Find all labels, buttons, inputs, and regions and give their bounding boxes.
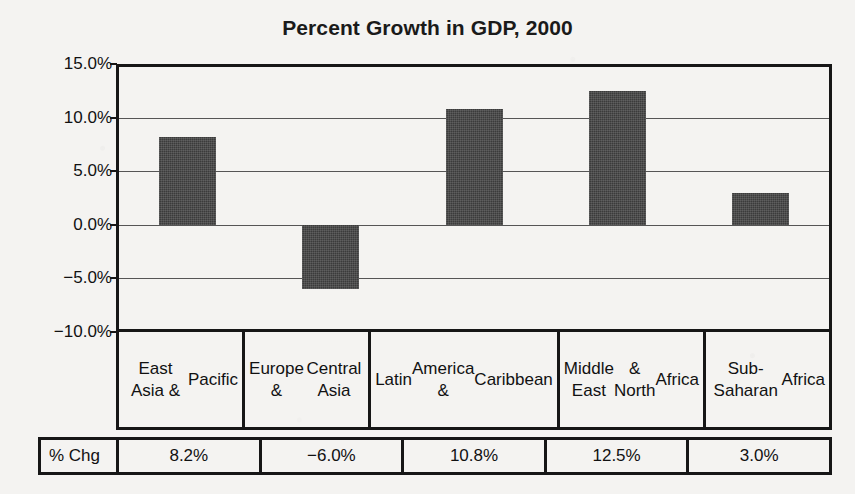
category-header-cell: Sub-SaharanAfrica — [706, 332, 829, 427]
bars-layer — [119, 67, 829, 329]
y-axis-tick-label: 0.0% — [4, 215, 112, 235]
data-value-row: % Chg 8.2%−6.0%10.8%12.5%3.0% — [38, 437, 832, 475]
chart-page: Percent Growth in GDP, 2000 15.0%10.0%5.… — [0, 0, 855, 494]
category-label-line: Europe & — [249, 358, 304, 402]
category-label-line: Latin — [375, 369, 412, 391]
category-label-line: Sub-Saharan — [710, 358, 782, 402]
data-value-cell: −6.0% — [262, 440, 405, 472]
data-value-cell: 8.2% — [119, 440, 262, 472]
category-header-cell: LatinAmerica &Caribbean — [371, 332, 560, 427]
y-axis-tick-label: −5.0% — [4, 268, 112, 288]
category-label-line: Pacific — [188, 369, 238, 391]
y-axis-tick-label: 10.0% — [4, 108, 112, 128]
category-label-line: & North — [614, 358, 656, 402]
bar — [446, 109, 503, 225]
plot-area — [116, 64, 832, 332]
category-header-row: East Asia &PacificEurope &Central AsiaLa… — [116, 332, 832, 430]
data-value-cell: 3.0% — [689, 440, 829, 472]
y-axis: 15.0%10.0%5.0%0.0%−5.0%−10.0% — [0, 0, 112, 494]
y-axis-tick-label: 5.0% — [4, 161, 112, 181]
category-label-line: Africa — [655, 369, 698, 391]
data-value-cell: 10.8% — [404, 440, 547, 472]
category-label-line: Africa — [782, 369, 825, 391]
y-axis-tick-label: 15.0% — [4, 54, 112, 74]
category-label-line: Middle East — [564, 358, 614, 402]
category-label-line: Caribbean — [474, 369, 552, 391]
bar — [302, 225, 359, 289]
bar — [732, 193, 789, 225]
category-header-cell: Middle East& NorthAfrica — [560, 332, 706, 427]
category-label-line: East Asia & — [123, 358, 188, 402]
category-header-cell: Europe &Central Asia — [245, 332, 371, 427]
row-header-pct-chg: % Chg — [41, 440, 119, 472]
chart-title: Percent Growth in GDP, 2000 — [0, 16, 855, 40]
category-label-line: Central Asia — [304, 358, 364, 402]
y-axis-tick-label: −10.0% — [4, 322, 112, 342]
category-label-line: America & — [412, 358, 474, 402]
data-value-cell: 12.5% — [547, 440, 690, 472]
category-header-cell: East Asia &Pacific — [119, 332, 245, 427]
bar — [159, 137, 216, 225]
bar — [589, 91, 646, 225]
